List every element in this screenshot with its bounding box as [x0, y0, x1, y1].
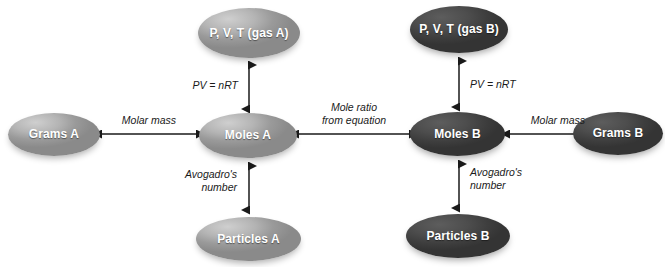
mole-map-diagram: P, V, T (gas A) Grams A Moles A Particle… — [0, 0, 665, 267]
label-moles-b-grams-b: Molar mass — [513, 114, 603, 127]
label-grams-a-moles-a: Molar mass — [105, 114, 193, 127]
arrow-gas-b-moles-b — [453, 52, 465, 116]
label-moles-b-particles-b: Avogadro's number — [470, 166, 562, 192]
label-gas-a-moles-a: PV = nRT — [150, 79, 238, 92]
arrow-moles-a-particles-a — [243, 157, 255, 219]
arrow-moles-a-moles-b — [289, 128, 419, 140]
label-moles-a-moles-b: Mole ratio from equation — [300, 101, 408, 127]
label-moles-a-particles-a: Avogadro's number — [149, 168, 237, 194]
node-gas-b: P, V, T (gas B) — [410, 6, 508, 53]
node-grams-a: Grams A — [8, 113, 100, 156]
node-particles-b: Particles B — [406, 214, 510, 258]
node-moles-b: Moles B — [410, 112, 505, 156]
node-particles-a: Particles A — [196, 217, 301, 261]
arrow-grams-a-moles-a — [92, 128, 206, 140]
node-gas-a: P, V, T (gas A) — [198, 8, 300, 58]
arrow-gas-a-moles-a — [243, 56, 255, 118]
label-gas-b-moles-b: PV = nRT — [470, 78, 560, 91]
node-moles-a: Moles A — [199, 113, 297, 158]
arrow-moles-b-particles-b — [453, 155, 465, 217]
